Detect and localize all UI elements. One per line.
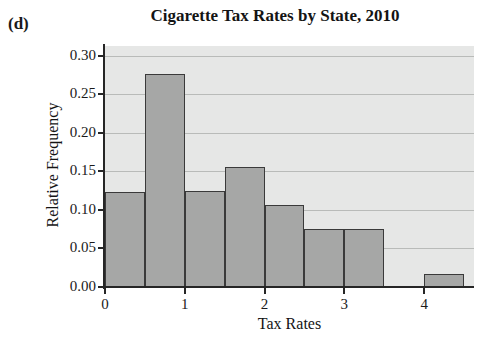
y-tick-mark (98, 55, 105, 57)
y-tick-mark (98, 209, 105, 211)
y-axis-title: Relative Frequency (44, 50, 62, 280)
x-tick-mark (343, 286, 345, 294)
chart-title: Cigarette Tax Rates by State, 2010 (105, 6, 445, 26)
y-tick-mark (98, 247, 105, 249)
bars-group (105, 46, 474, 287)
bar (145, 74, 185, 287)
x-tick-mark (423, 286, 425, 294)
bar (185, 191, 225, 287)
y-axis-spine (103, 44, 105, 289)
plot-area (105, 46, 474, 287)
y-tick-mark (98, 93, 105, 95)
x-tick-label: 3 (329, 296, 359, 313)
x-tick-mark (264, 286, 266, 294)
x-axis-spine (103, 286, 474, 288)
bar (225, 167, 265, 287)
bar (105, 192, 145, 287)
panel-label: (d) (8, 14, 29, 34)
y-tick-mark (98, 132, 105, 134)
figure-panel: (d) Cigarette Tax Rates by State, 2010 0… (0, 0, 480, 340)
bar (265, 205, 305, 287)
bar (304, 229, 344, 287)
x-tick-label: 2 (250, 296, 280, 313)
x-tick-mark (104, 286, 106, 294)
x-axis-title: Tax Rates (105, 315, 474, 333)
x-tick-label: 4 (409, 296, 439, 313)
y-tick-mark (98, 170, 105, 172)
x-tick-label: 1 (170, 296, 200, 313)
x-tick-label: 0 (90, 296, 120, 313)
y-tick-label: 0.00 (36, 278, 96, 295)
bar (344, 229, 384, 287)
x-tick-mark (184, 286, 186, 294)
